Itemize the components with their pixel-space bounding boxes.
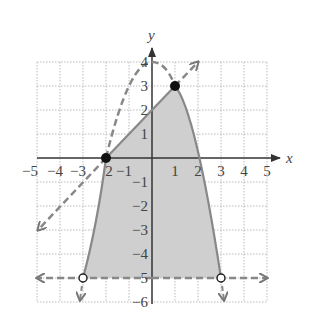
svg-text:2: 2 [194,163,202,179]
svg-text:−5: −5 [22,163,38,179]
svg-text:−4: −4 [47,163,63,179]
svg-text:−3: −3 [132,222,148,238]
open-point-left [79,274,87,282]
closed-point-top [170,81,180,91]
y-axis-label: y [146,27,155,43]
graph: x y −5 −4 −3 2 −1 1 2 3 4 5 4 3 2 1 −1 −… [0,0,312,325]
svg-text:4: 4 [141,54,149,70]
svg-text:5: 5 [141,270,149,286]
svg-text:4: 4 [240,163,248,179]
svg-text:3: 3 [217,163,225,179]
svg-text:1: 1 [141,126,149,142]
svg-text:2: 2 [141,102,149,118]
x-axis-label: x [285,150,293,166]
svg-text:−2: −2 [132,198,148,214]
svg-text:2: 2 [105,163,113,179]
svg-text:3: 3 [141,78,149,94]
svg-text:−4: −4 [132,246,148,262]
svg-text:−1: −1 [132,174,148,190]
open-point-right [217,274,225,282]
svg-text:−3: −3 [70,163,86,179]
svg-text:5: 5 [263,163,271,179]
svg-text:−1: −1 [116,163,132,179]
svg-text:−6: −6 [132,294,148,310]
closed-point-left [101,153,111,163]
svg-text:1: 1 [171,163,179,179]
